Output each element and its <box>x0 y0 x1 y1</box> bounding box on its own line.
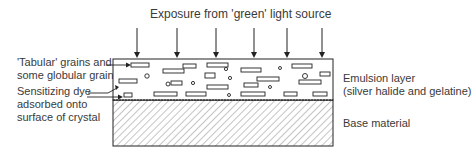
film-cross-section-diagram <box>0 0 475 162</box>
base-material <box>113 100 333 146</box>
light-arrows <box>134 28 325 58</box>
